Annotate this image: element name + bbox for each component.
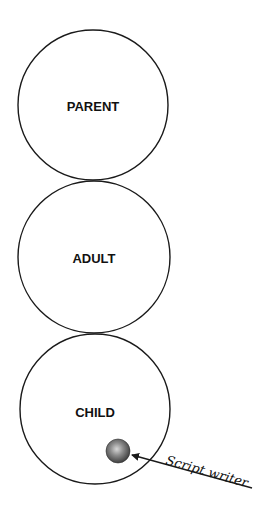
adult-ego-state: ADULT: [18, 181, 170, 333]
parent-label: PARENT: [67, 99, 120, 114]
parent-ego-state: PARENT: [18, 30, 168, 180]
child-label: CHILD: [75, 405, 115, 420]
script-writer-ball-icon: [106, 439, 130, 463]
script-writer-label: Script writer: [164, 452, 250, 490]
ego-states-diagram: PARENT ADULT CHILD Script writer: [0, 0, 270, 510]
child-ego-state: CHILD: [20, 334, 170, 484]
adult-label: ADULT: [72, 251, 115, 266]
